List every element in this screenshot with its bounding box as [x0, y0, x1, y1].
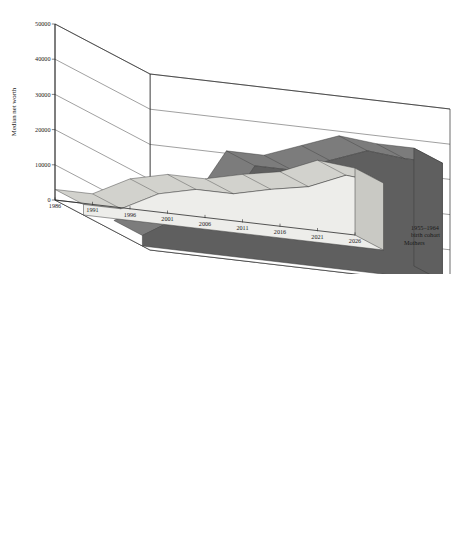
chart-svg-bottom: 010000200003000040000500006000070000Medi…	[0, 274, 468, 548]
legend-label: birth cohort	[411, 231, 440, 238]
chart-panel-top: 01000020000300004000050000Median net wor…	[0, 0, 468, 274]
x-tick-label: 1986	[49, 202, 61, 209]
figure-page: 01000020000300004000050000Median net wor…	[0, 0, 468, 548]
x-tick-label: 1996	[124, 211, 136, 218]
x-tick-label: 2006	[199, 220, 211, 227]
series-end-cap	[414, 148, 443, 274]
x-tick-label: 2011	[236, 224, 248, 231]
x-tick-label: 2026	[349, 237, 361, 244]
y-tick-label: 30000	[35, 91, 50, 98]
x-tick-label: 2021	[311, 233, 323, 240]
chart-svg-top: 01000020000300004000050000Median net wor…	[0, 0, 468, 274]
chart-panel-bottom: 010000200003000040000500006000070000Medi…	[0, 274, 468, 548]
x-tick-label: 1991	[86, 206, 98, 213]
y-tick-label: 40000	[35, 55, 50, 62]
x-tick-label: 2001	[161, 215, 173, 222]
legend-label: 1955–1964	[411, 224, 439, 231]
y-tick-label: 10000	[35, 161, 50, 168]
y-tick-label: 50000	[35, 20, 50, 27]
legend-label: Mothers	[404, 239, 425, 246]
x-tick-label: 2016	[274, 228, 286, 235]
y-tick-label: 20000	[35, 126, 50, 133]
y-axis-title: Median net worth	[10, 87, 17, 136]
